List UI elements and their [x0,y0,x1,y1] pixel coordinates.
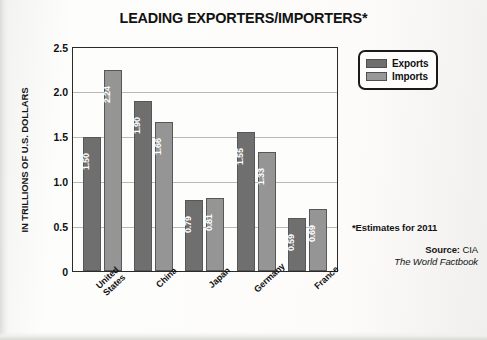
bar-exports-china[interactable]: 1.90 [134,101,152,271]
page-title: LEADING EXPORTERS/IMPORTERS* [17,9,470,27]
bar-imports-germany[interactable]: 1.33 [258,152,276,271]
y-tick-2-0: 2.0 [40,87,68,97]
bar-group-united-states: 1.50 2.24 [83,70,122,271]
estimates-note: *Estimates for 2011 [352,222,478,233]
y-tick-1-0: 1.0 [40,177,68,187]
bar-exports-japan[interactable]: 0.79 [185,200,203,271]
bar-exports-united-states[interactable]: 1.50 [83,137,101,271]
y-tick-1-5: 1.5 [40,132,68,142]
source-value: CIA [462,244,478,255]
bar-value-imports-japan: 0.81 [201,215,229,231]
bar-group-japan: 0.79 0.81 [185,198,224,271]
bar-value-exports-germany: 1.55 [232,149,260,165]
legend-label-imports: Imports [392,71,428,82]
y-axis-tick-labels: 2.5 2.0 1.5 1.0 0.5 0 [36,47,68,272]
y-tick-2-5: 2.5 [40,43,68,53]
y-tick-0-5: 0.5 [40,222,68,232]
bar-group-china: 1.90 1.66 [134,101,173,271]
bar-value-imports-united-states: 2.24 [99,87,127,103]
bar-value-imports-germany: 1.33 [253,169,281,185]
source-label: Source: [425,244,460,255]
x-axis-tick-labels: United States China Japan Germany France [72,274,338,334]
bar-group-germany: 1.55 1.33 [237,132,276,271]
bar-value-imports-china: 1.66 [150,139,178,155]
chart-legend: Exports Imports [358,50,438,90]
bar-imports-china[interactable]: 1.66 [155,122,173,271]
bar-value-exports-united-states: 1.50 [78,154,106,170]
source-line: Source: CIA [352,244,478,255]
legend-swatch-imports-icon [366,72,387,81]
bar-imports-united-states[interactable]: 2.24 [104,70,122,271]
bar-value-exports-china: 1.90 [129,118,157,134]
plot-area: 1.50 2.24 1.90 1.66 0.79 0.81 [72,47,338,272]
legend-label-exports: Exports [392,58,429,69]
chart-page: LEADING EXPORTERS/IMPORTERS* IN TRILLION… [0,0,487,340]
y-axis-title: IN TRILLIONS OF U.S. DOLLARS [18,48,32,272]
source-book: The World Factbook [352,256,478,267]
bar-imports-france[interactable]: 0.69 [309,209,327,271]
y-tick-0: 0 [40,267,68,277]
legend-item-exports[interactable]: Exports [366,57,429,70]
legend-item-imports[interactable]: Imports [366,70,429,83]
bar-exports-germany[interactable]: 1.55 [237,132,255,271]
bar-series-container: 1.50 2.24 1.90 1.66 0.79 0.81 [73,48,337,271]
footnote-block: *Estimates for 2011 Source: CIA The Worl… [352,222,478,267]
bar-imports-japan[interactable]: 0.81 [206,198,224,271]
legend-swatch-exports-icon [366,59,387,68]
bar-value-imports-france: 0.69 [304,226,332,242]
